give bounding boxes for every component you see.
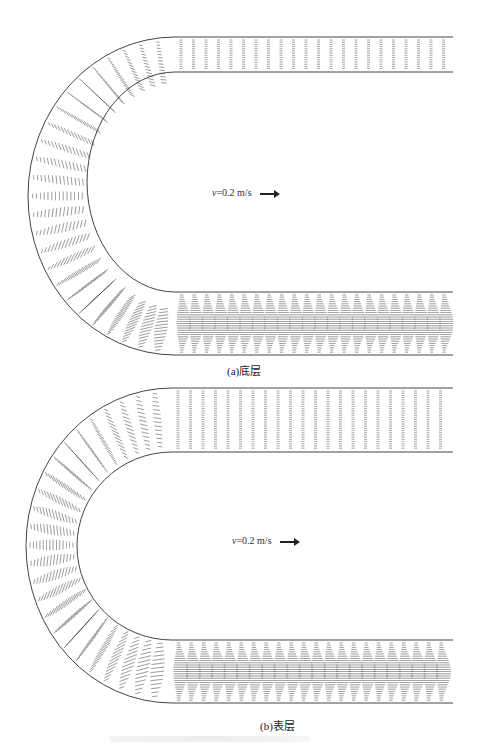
inner-wall bbox=[87, 72, 453, 292]
panel-caption-b: (b)表层 bbox=[260, 717, 295, 733]
velocity-scale-label-a: v=0.2 m/s bbox=[212, 187, 278, 198]
inner-wall bbox=[77, 452, 453, 640]
panel-b-surface-layer: v=0.2 m/s (b)表层 bbox=[0, 350, 483, 725]
velocity-scale-value: =0.2 m/s bbox=[236, 535, 271, 546]
figure-caption-faded bbox=[110, 736, 310, 742]
scale-arrow-icon bbox=[280, 541, 298, 543]
panel-a-bottom-layer: v=0.2 m/s (a)底层 bbox=[0, 0, 483, 375]
velocity-scale-value: =0.2 m/s bbox=[216, 187, 251, 198]
velocity-scale-label-b: v=0.2 m/s bbox=[232, 535, 298, 546]
scale-arrow-icon bbox=[260, 193, 278, 195]
